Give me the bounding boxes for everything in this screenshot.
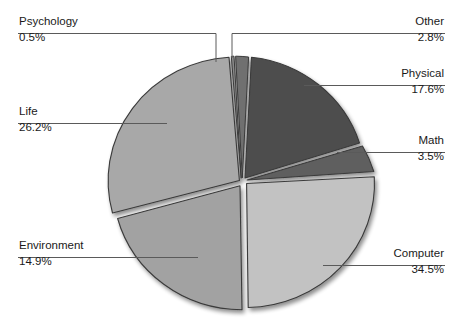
callout-math: Math 3.5% — [417, 133, 445, 164]
callout-other-label: Other — [414, 14, 445, 29]
callout-other-value: 2.8% — [414, 29, 445, 44]
callout-computer-value: 34.5% — [393, 261, 446, 276]
pie-chart-figure: Psychology 0.5% Life 26.2% Environment 1… — [0, 0, 463, 321]
callout-physical-value: 17.6% — [400, 81, 445, 96]
callout-computer-label: Computer — [393, 246, 446, 261]
callout-psychology: Psychology 0.5% — [18, 14, 79, 45]
callout-environment-label: Environment — [18, 238, 85, 253]
pie-slice-life — [108, 57, 239, 213]
callout-psychology-label: Psychology — [18, 14, 79, 29]
leader-line-other — [232, 34, 445, 59]
callout-physical-label: Physical — [400, 66, 445, 81]
callout-physical: Physical 17.6% — [400, 66, 445, 97]
callout-life: Life 26.2% — [18, 104, 53, 135]
callout-life-label: Life — [18, 104, 53, 119]
callout-math-label: Math — [417, 133, 445, 148]
callout-math-value: 3.5% — [417, 148, 445, 163]
pie-slice-computer — [247, 177, 375, 308]
pie-slices-group — [108, 56, 374, 310]
callout-psychology-value: 0.5% — [18, 29, 79, 44]
callout-other: Other 2.8% — [414, 14, 445, 45]
callout-computer: Computer 34.5% — [393, 246, 446, 277]
callout-environment: Environment 14.9% — [18, 238, 85, 269]
callout-environment-value: 14.9% — [18, 253, 85, 268]
callout-life-value: 26.2% — [18, 119, 53, 134]
